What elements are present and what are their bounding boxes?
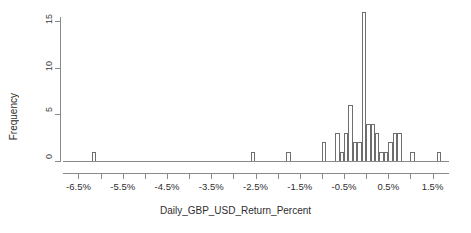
y-axis-tick-label: 10: [44, 61, 54, 71]
x-axis-minor-tick: [410, 173, 411, 179]
y-axis-tick: [55, 68, 61, 69]
x-axis-tick-label: -2.5%: [243, 181, 268, 192]
histogram-bar: [286, 152, 290, 161]
x-axis-tick-label: -4.5%: [155, 181, 180, 192]
x-axis-tick-label: -1.5%: [287, 181, 312, 192]
histogram-bar: [410, 152, 414, 161]
histogram-bar: [322, 142, 326, 161]
y-axis-ticks: 051015: [36, 0, 54, 233]
histogram-bar: [397, 133, 401, 161]
x-axis-tick-label: -3.5%: [199, 181, 224, 192]
histogram-chart: Frequency 051015 -6.5%-5.5%-4.5%-3.5%-2.…: [0, 0, 471, 233]
x-axis-tick-label: 0.5%: [377, 181, 399, 192]
y-axis-tick-label: 15: [44, 14, 54, 24]
y-axis-tick: [55, 21, 61, 22]
plot-baseline: [63, 161, 449, 162]
x-axis-tick: [300, 173, 301, 179]
histogram-bar: [92, 152, 96, 161]
x-axis-tick: [388, 173, 389, 179]
x-axis-tick-label: -0.5%: [332, 181, 357, 192]
x-axis-tick: [211, 173, 212, 179]
histogram-bar: [437, 152, 441, 161]
x-axis-minor-tick: [145, 173, 146, 179]
x-axis-title: Daily_GBP_USD_Return_Percent: [0, 205, 471, 216]
histogram-bars: [63, 12, 448, 161]
x-axis-minor-tick: [233, 173, 234, 179]
x-axis-minor-tick: [189, 173, 190, 179]
x-axis-tick-label: -5.5%: [110, 181, 135, 192]
x-axis-tick-label: -6.5%: [66, 181, 91, 192]
y-axis-title: Frequency: [8, 0, 19, 233]
y-axis-tick: [55, 114, 61, 115]
histogram-bar: [251, 152, 255, 161]
y-axis-title-text: Frequency: [8, 93, 19, 140]
x-axis-tick: [344, 173, 345, 179]
x-axis-minor-tick: [366, 173, 367, 179]
x-axis-minor-tick: [278, 173, 279, 179]
y-axis-tick-label: 5: [44, 107, 54, 112]
y-axis-line: [60, 17, 61, 162]
x-axis-tick: [256, 173, 257, 179]
x-axis-tick: [167, 173, 168, 179]
y-axis-tick-label: 0: [44, 154, 54, 159]
plot-area: [63, 12, 448, 161]
x-axis-tick: [123, 173, 124, 179]
x-axis-tick: [433, 173, 434, 179]
x-axis-minor-tick: [101, 173, 102, 179]
x-axis-minor-tick: [322, 173, 323, 179]
x-axis-tick-label: 1.5%: [422, 181, 444, 192]
y-axis-tick: [55, 161, 61, 162]
x-axis-tick: [78, 173, 79, 179]
